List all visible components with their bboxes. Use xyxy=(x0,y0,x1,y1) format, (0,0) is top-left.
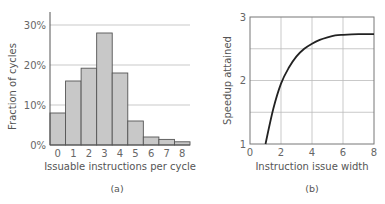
x-tick-label: 4 xyxy=(309,147,315,158)
x-tick-label: 0 xyxy=(55,148,61,159)
figure-canvas: 0%10%20%30%012345678Issuable instruction… xyxy=(0,0,385,204)
caption-a: (a) xyxy=(110,183,123,194)
x-tick-label: 6 xyxy=(340,147,346,158)
x-tick-label: 7 xyxy=(163,148,169,159)
y-axis-title: Speedup attained xyxy=(222,36,233,125)
x-tick-label: 8 xyxy=(371,147,377,158)
x-tick-label: 4 xyxy=(117,148,123,159)
histogram-bar xyxy=(143,137,159,145)
histogram-bar xyxy=(112,73,128,145)
y-tick-label: 0% xyxy=(30,140,46,151)
x-tick-label: 3 xyxy=(101,148,107,159)
histogram-bar xyxy=(128,121,144,145)
x-axis-title: Instruction issue width xyxy=(255,161,368,172)
speedup-line-chart: 02468123Instruction issue widthSpeedup a… xyxy=(222,12,377,195)
histogram-bar xyxy=(66,81,82,145)
x-tick-label: 8 xyxy=(179,148,185,159)
histogram-bar xyxy=(159,139,175,145)
y-tick-label: 20% xyxy=(24,60,46,71)
y-axis-title: Fraction of cycles xyxy=(7,43,18,130)
histogram-bar xyxy=(50,113,66,145)
x-tick-label: 6 xyxy=(148,148,154,159)
y-tick-label: 10% xyxy=(24,100,46,111)
x-tick-label: 2 xyxy=(278,147,284,158)
caption-b: (b) xyxy=(305,183,318,194)
y-tick-label: 30% xyxy=(24,20,46,31)
x-axis-title: Issuable instructions per cycle xyxy=(44,161,196,172)
histogram-bar xyxy=(97,33,113,145)
x-tick-label: 5 xyxy=(132,148,138,159)
speedup-curve xyxy=(266,34,375,144)
y-tick-label: 2 xyxy=(240,75,246,86)
x-tick-label: 2 xyxy=(86,148,92,159)
histogram-chart: 0%10%20%30%012345678Issuable instruction… xyxy=(7,12,196,194)
x-tick-label: 1 xyxy=(70,148,76,159)
y-tick-label: 3 xyxy=(240,12,246,23)
histogram-bar xyxy=(81,68,97,145)
y-tick-label: 1 xyxy=(240,139,246,150)
x-tick-label: 0 xyxy=(247,147,253,158)
